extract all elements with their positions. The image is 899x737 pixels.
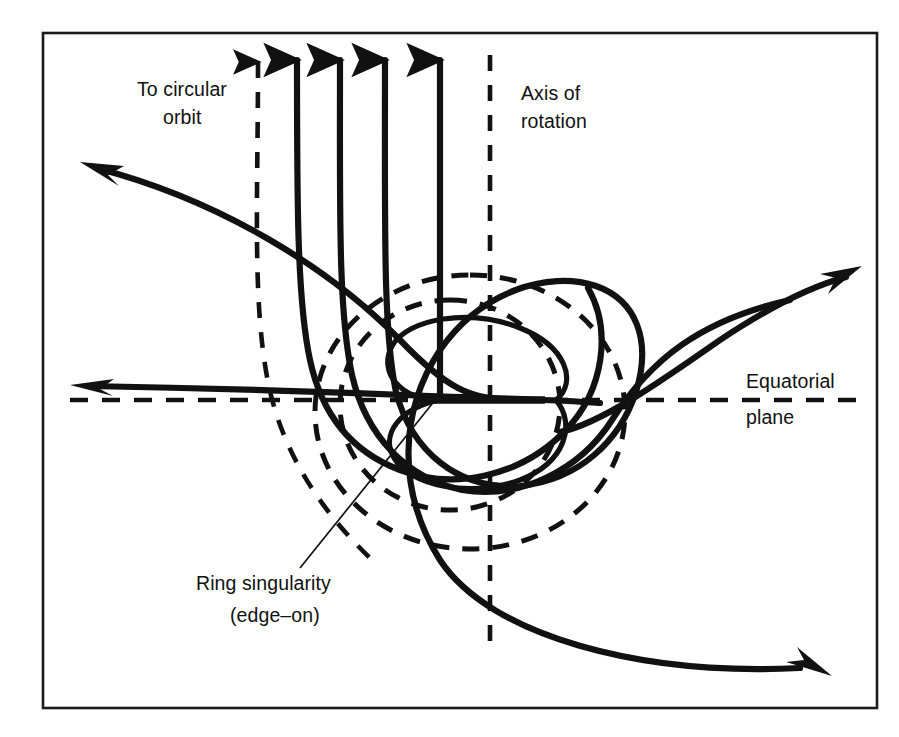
label-equatorial-plane-line1: Equatorial	[746, 370, 835, 392]
label-ring-singularity-line2: (edge–on)	[230, 604, 320, 626]
label-axis-of-rotation-line2: rotation	[521, 110, 587, 132]
diagram-canvas: To circular orbit Axis of rotation Equat…	[0, 0, 899, 737]
label-to-circular-orbit-line2: orbit	[163, 106, 202, 128]
label-axis-of-rotation-line1: Axis of	[521, 82, 581, 104]
figure-root: To circular orbit Axis of rotation Equat…	[0, 0, 899, 737]
label-to-circular-orbit-line1: To circular	[137, 78, 227, 100]
page-background	[0, 0, 899, 737]
label-ring-singularity-line1: Ring singularity	[196, 572, 331, 594]
label-equatorial-plane-line2: plane	[746, 406, 794, 428]
